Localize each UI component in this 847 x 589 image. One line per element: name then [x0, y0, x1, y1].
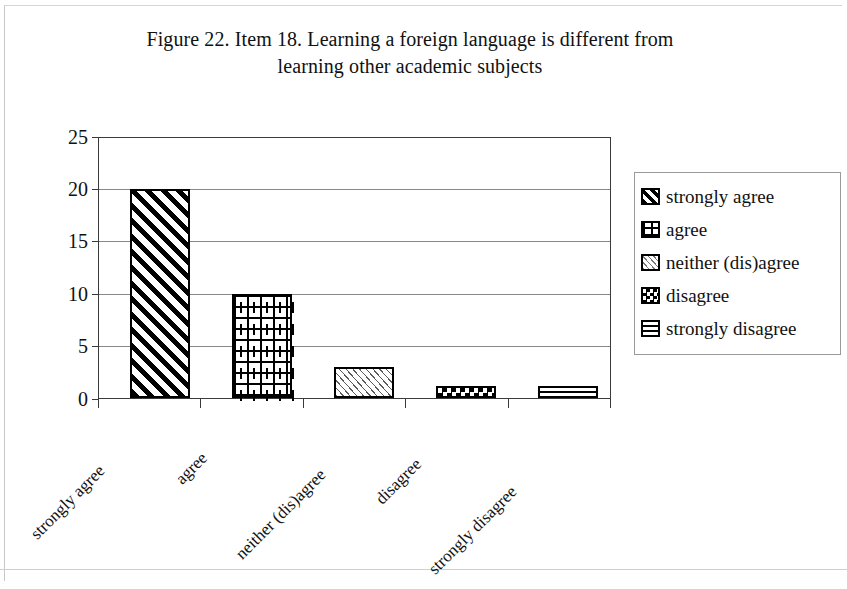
legend-label-agree: agree — [666, 219, 707, 240]
legend-item-strongly-disagree[interactable]: strongly disagree — [641, 312, 835, 345]
x-tick-0 — [98, 399, 99, 408]
legend-swatch-horizontal-bands-icon — [641, 320, 660, 337]
legend-label-neither-disagree: neither (dis)agree — [666, 252, 799, 273]
x-label-strongly-agree: strongly agree — [27, 462, 108, 543]
x-label-neither-disagree: neither (dis)agree — [232, 466, 329, 563]
y-axis: 25 20 15 10 5 0 — [36, 137, 88, 399]
y-tick-label-5: 5 — [44, 336, 88, 356]
x-tick-4 — [508, 399, 509, 408]
bar-strongly-disagree[interactable] — [538, 386, 598, 398]
legend-label-disagree: disagree — [666, 285, 729, 306]
bar-disagree[interactable] — [436, 386, 496, 398]
figure-title-line-1: Figure 22. Item 18. Learning a foreign l… — [60, 26, 760, 53]
figure-title-line-2: learning other academic subjects — [60, 53, 760, 80]
legend-swatch-diagonal-light-icon — [641, 254, 660, 271]
bar-neither-disagree[interactable] — [334, 367, 394, 398]
y-tick-label-25: 25 — [44, 127, 88, 147]
y-tick-label-0: 0 — [44, 389, 88, 409]
x-label-agree: agree — [172, 449, 211, 488]
x-tick-5 — [610, 399, 611, 408]
legend-item-agree[interactable]: agree — [641, 213, 835, 246]
legend-label-strongly-agree: strongly agree — [666, 186, 774, 207]
bar-strongly-agree[interactable] — [130, 189, 190, 398]
legend-item-strongly-agree[interactable]: strongly agree — [641, 180, 835, 213]
chart-legend: strongly agree agree neither (dis)agree … — [634, 172, 841, 355]
y-tick-label-10: 10 — [44, 284, 88, 304]
legend-item-neither-disagree[interactable]: neither (dis)agree — [641, 246, 835, 279]
x-label-strongly-disagree: strongly disagree — [425, 483, 520, 578]
x-label-disagree: disagree — [372, 455, 425, 508]
x-tick-1 — [200, 399, 201, 408]
x-tick-3 — [405, 399, 406, 408]
plot-area — [98, 137, 611, 399]
x-tick-2 — [303, 399, 304, 408]
legend-swatch-checker-icon — [641, 287, 660, 304]
legend-item-disagree[interactable]: disagree — [641, 279, 835, 312]
legend-label-strongly-disagree: strongly disagree — [666, 318, 796, 339]
legend-swatch-brick-icon — [641, 221, 660, 238]
scanned-page-bottom-rule — [0, 569, 847, 570]
legend-swatch-diagonal-bold-icon — [641, 188, 660, 205]
y-tick-label-15: 15 — [44, 231, 88, 251]
figure-title: Figure 22. Item 18. Learning a foreign l… — [60, 26, 760, 80]
bar-agree[interactable] — [232, 294, 292, 398]
y-tick-label-20: 20 — [44, 179, 88, 199]
